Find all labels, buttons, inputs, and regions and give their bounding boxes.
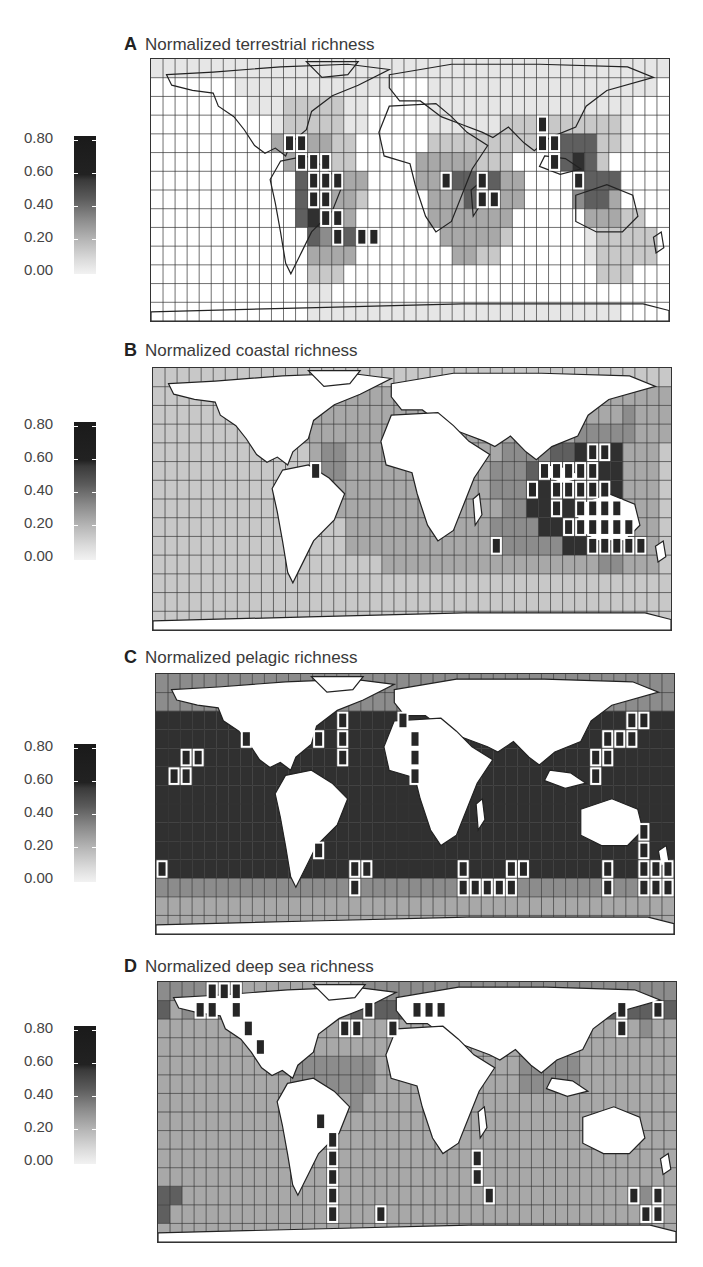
- panel-d-map: [157, 981, 677, 1243]
- panel-d-title: DNormalized deep sea richness: [124, 956, 374, 977]
- legend-tick: 0.40: [24, 1086, 53, 1102]
- colorbar: [74, 1026, 96, 1164]
- legend-tick: 0.80: [24, 1020, 53, 1036]
- panel-d-letter: D: [124, 956, 137, 976]
- legend-tick: 0.20: [24, 1119, 53, 1135]
- panel-d: DNormalized deep sea richness 0.80 0.60 …: [0, 0, 703, 1267]
- legend-tick: 0.60: [24, 1053, 53, 1069]
- panel-d-title-text: Normalized deep sea richness: [145, 957, 374, 976]
- legend-tick: 0.00: [24, 1152, 53, 1168]
- map-d-svg: [158, 982, 676, 1242]
- panel-d-legend: 0.80 0.60 0.40 0.20 0.00: [24, 1020, 134, 1170]
